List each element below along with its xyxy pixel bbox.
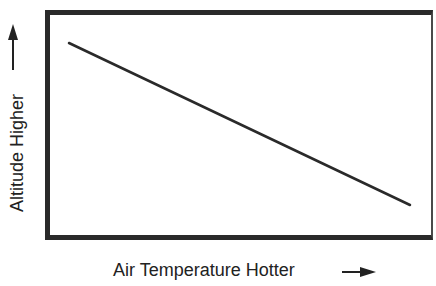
chart-canvas: [0, 0, 436, 286]
y-axis-label: Altitude Higher: [7, 94, 28, 212]
x-axis-label: Air Temperature Hotter: [113, 260, 295, 281]
data-line: [69, 43, 410, 205]
x-axis-arrow-icon: [342, 267, 376, 277]
y-axis-arrow-icon: [8, 24, 18, 70]
